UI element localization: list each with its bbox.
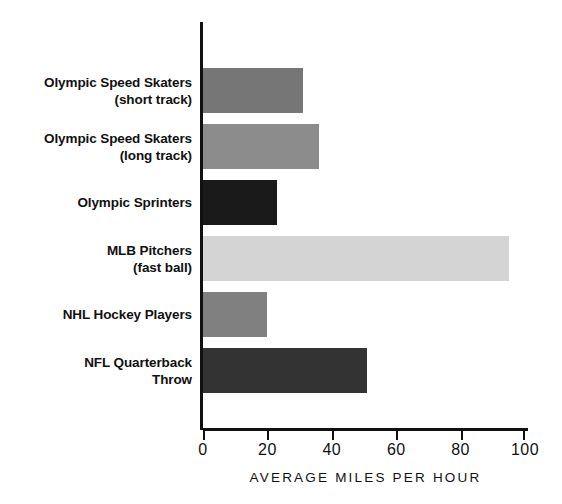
x-tick-label: 100 (511, 441, 539, 459)
category-label-mlb-pitchers-fast-ball: MLB Pitchers (fast ball) (0, 242, 192, 276)
bar-olympic-speed-skaters-long-track (203, 124, 319, 169)
x-tick-mark (203, 431, 205, 440)
bar-nfl-quarterback-throw (203, 348, 367, 393)
bar-row (203, 348, 367, 393)
x-tick-mark (396, 431, 398, 440)
x-tick-label: 0 (198, 441, 207, 459)
category-label-olympic-speed-skaters-short-track: Olympic Speed Skaters (short track) (0, 74, 192, 108)
x-tick-label: 20 (258, 441, 277, 459)
x-tick-label: 60 (387, 441, 406, 459)
bars-layer (203, 22, 528, 428)
x-tick-mark (461, 431, 463, 440)
bar-row (203, 292, 267, 337)
x-axis-title: AVERAGE MILES PER HOUR (203, 470, 528, 485)
x-tick-mark (523, 431, 525, 440)
bar-row (203, 236, 509, 281)
bar-mlb-pitchers-fast-ball (203, 236, 509, 281)
bar-nhl-hockey-players (203, 292, 267, 337)
bar-olympic-speed-skaters-short-track (203, 68, 303, 113)
bar-olympic-sprinters (203, 180, 277, 225)
category-label-olympic-sprinters: Olympic Sprinters (0, 194, 192, 211)
bar-row (203, 68, 303, 113)
category-label-nfl-quarterback-throw: NFL Quarterback Throw (0, 354, 192, 388)
category-label-nhl-hockey-players: NHL Hockey Players (0, 306, 192, 323)
x-axis-line (203, 428, 528, 431)
x-tick-label: 80 (451, 441, 470, 459)
bar-row (203, 180, 277, 225)
category-label-olympic-speed-skaters-long-track: Olympic Speed Skaters (long track) (0, 130, 192, 164)
category-labels: Olympic Speed Skaters (short track) Olym… (0, 22, 192, 428)
x-tick-mark (267, 431, 269, 440)
bar-chart: Olympic Speed Skaters (short track) Olym… (0, 0, 562, 504)
x-tick-mark (332, 431, 334, 440)
bar-row (203, 124, 319, 169)
x-tick-label: 40 (322, 441, 341, 459)
